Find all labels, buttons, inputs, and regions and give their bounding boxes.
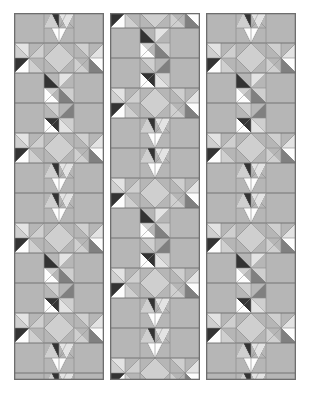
center-panel-r7-c2-plain — [170, 208, 200, 238]
center-panel-r5-c2-plain — [170, 148, 200, 178]
left-panel-r2-c2-plain — [74, 73, 104, 103]
right-panel-r11-c0-plain — [206, 343, 236, 373]
right-panel-r8-c0-plain — [206, 253, 236, 283]
left-panel-r8-c2-plain — [74, 253, 104, 283]
center-panel-r11-c0-plain — [110, 328, 140, 358]
center-panel-r11-c2-plain — [170, 328, 200, 358]
left-panel-patches — [14, 13, 104, 380]
left-panel-r0-c2-plain — [74, 13, 104, 43]
left-panel-r3-c2-plain — [74, 103, 104, 133]
left-panel-r6-c2-plain — [74, 193, 104, 223]
right-panel-r0-c0-plain — [206, 13, 236, 43]
left-panel-r3-c0-plain — [14, 103, 44, 133]
center-panel-r10-c2-plain — [170, 298, 200, 328]
center-panel-r7-c0-plain — [110, 208, 140, 238]
right-panel-r11-c2-plain — [266, 343, 296, 373]
right-panel-r8-c2-plain — [266, 253, 296, 283]
left-panel-r0-c0-plain — [14, 13, 44, 43]
left-panel — [14, 13, 104, 380]
left-panel-r11-c0-plain — [14, 343, 44, 373]
center-panel-r1-c0-plain — [110, 28, 140, 58]
right-panel — [206, 13, 296, 380]
center-panel-r5-c0-plain — [110, 148, 140, 178]
center-panel-r10-c0-plain — [110, 298, 140, 328]
center-panel-r2-c2-plain — [170, 58, 200, 88]
center-panel-r4-c2-plain — [170, 118, 200, 148]
center-panel-r1-c2-plain — [170, 28, 200, 58]
left-panel-r9-c0-plain — [14, 283, 44, 313]
center-panel-r8-c2-plain — [170, 238, 200, 268]
right-panel-r2-c2-plain — [266, 73, 296, 103]
right-panel-r9-c0-plain — [206, 283, 236, 313]
left-panel-r11-c2-plain — [74, 343, 104, 373]
right-panel-r0-c2-plain — [266, 13, 296, 43]
left-panel-r5-c0-plain — [14, 163, 44, 193]
right-panel-r3-c0-plain — [206, 103, 236, 133]
center-panel-canvas — [110, 13, 200, 380]
left-panel-r5-c2-plain — [74, 163, 104, 193]
center-panel-r8-c0-plain — [110, 238, 140, 268]
right-panel-r2-c0-plain — [206, 73, 236, 103]
center-panel — [110, 13, 200, 380]
left-panel-r2-c0-plain — [14, 73, 44, 103]
right-panel-r5-c2-plain — [266, 163, 296, 193]
left-panel-r6-c0-plain — [14, 193, 44, 223]
center-panel-r2-c0-plain — [110, 58, 140, 88]
right-panel-r6-c0-plain — [206, 193, 236, 223]
left-panel-r9-c2-plain — [74, 283, 104, 313]
right-panel-r5-c0-plain — [206, 163, 236, 193]
right-panel-r3-c2-plain — [266, 103, 296, 133]
right-panel-r9-c2-plain — [266, 283, 296, 313]
right-panel-canvas — [206, 13, 296, 380]
right-panel-patches — [206, 13, 296, 380]
right-panel-r6-c2-plain — [266, 193, 296, 223]
center-panel-r4-c0-plain — [110, 118, 140, 148]
left-panel-canvas — [14, 13, 104, 380]
quilt-diagram — [0, 0, 310, 394]
center-panel-patches — [110, 13, 200, 380]
left-panel-r8-c0-plain — [14, 253, 44, 283]
